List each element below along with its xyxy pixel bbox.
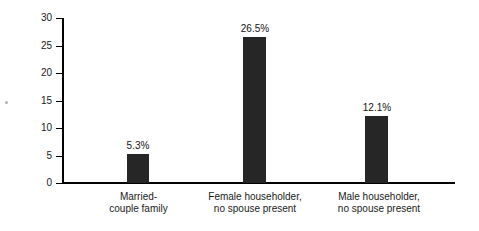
scan-artifact-speck (5, 101, 8, 104)
x-axis-category-label: Female householder, no spouse present (192, 191, 318, 215)
bar-value-label: 26.5% (229, 23, 281, 34)
y-axis-tick-label: 20 (12, 68, 52, 78)
x-axis-category-label: Married- couple family (86, 191, 191, 215)
bar (243, 37, 266, 183)
y-axis-tick-label: 25 (12, 41, 52, 51)
y-axis-tick-label: 5 (12, 151, 52, 161)
y-axis-tick-label: 30 (12, 13, 52, 23)
bar (365, 116, 388, 183)
bar-value-label: 12.1% (351, 102, 403, 113)
plot-area (63, 18, 455, 183)
bar (127, 154, 149, 183)
y-axis-tick-label: 0 (12, 178, 52, 188)
bar-chart: Percent 051015202530 5.3%26.5%12.1% Marr… (0, 0, 479, 231)
x-axis-category-label: Male householder, no spouse present (317, 191, 441, 215)
y-axis-tick-label: 10 (12, 123, 52, 133)
bar-value-label: 5.3% (113, 140, 163, 151)
y-axis-tick-label: 15 (12, 96, 52, 106)
